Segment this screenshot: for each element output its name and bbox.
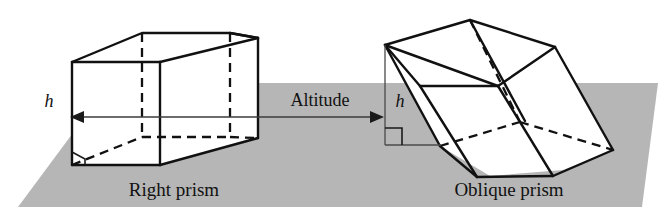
right-prism	[72, 33, 258, 165]
geometry-figure: h h Altitude Right prism Oblique prism	[0, 0, 658, 219]
height-label-left: h	[45, 91, 54, 111]
oblique-prism-caption: Oblique prism	[454, 179, 563, 200]
height-label-right: h	[396, 91, 405, 111]
right-prism-caption: Right prism	[129, 179, 219, 200]
altitude-label: Altitude	[291, 90, 350, 110]
prisms-diagram-svg: h h Altitude Right prism Oblique prism	[0, 0, 658, 219]
